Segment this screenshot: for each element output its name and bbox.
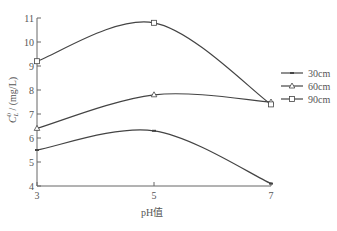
y-axis-label: CL0 / (mg/L) (5, 77, 20, 123)
square-marker-icon (152, 20, 157, 25)
y-tick-label: 6 (29, 133, 34, 144)
square-marker-icon (269, 102, 274, 107)
y-tick-label: 9 (29, 61, 34, 72)
square-marker-icon (290, 97, 295, 102)
series-line (37, 94, 271, 129)
legend-label: 30cm (308, 68, 330, 79)
y-axis-label-unit: / (mg/L) (7, 77, 19, 113)
square-marker-icon (35, 59, 40, 64)
x-axis-label: pH值 (141, 206, 163, 218)
legend-item-90cm: 90cm (281, 94, 330, 105)
legend-label: 60cm (308, 81, 330, 92)
legend-label: 90cm (308, 94, 330, 105)
y-tick-label: 5 (29, 157, 34, 168)
series-60cm (34, 92, 274, 131)
series-lines (34, 20, 274, 183)
y-tick-label: 11 (24, 13, 34, 24)
y-tick-label: 4 (29, 181, 34, 192)
legend: 30cm60cm90cm (281, 68, 330, 105)
x-tick-label: 5 (152, 190, 157, 201)
x-tick-label: 3 (35, 190, 40, 201)
series-30cm (35, 130, 273, 184)
legend-item-30cm: 30cm (281, 68, 330, 79)
y-tick-label: 8 (29, 85, 34, 96)
y-tick-label: 10 (24, 37, 34, 48)
x-tick-label: 7 (269, 190, 274, 201)
series-line (37, 130, 271, 184)
y-tick-label: 7 (29, 109, 34, 120)
legend-item-60cm: 60cm (281, 81, 330, 92)
line-chart: 4567891011357 30cm60cm90cm pH值 CL0 / (mg… (0, 0, 337, 231)
axes: 4567891011357 (24, 13, 274, 202)
